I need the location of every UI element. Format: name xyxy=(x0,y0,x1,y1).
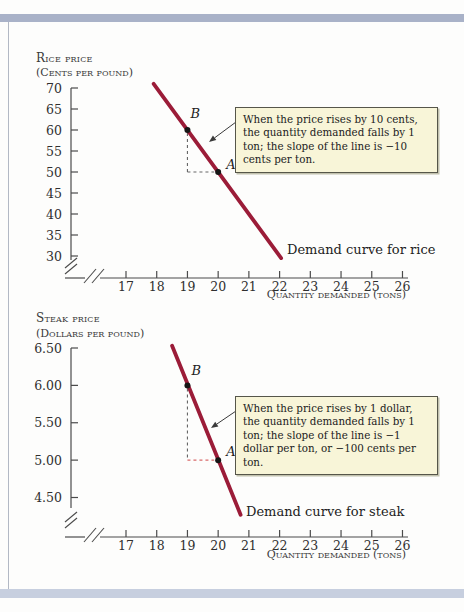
x-tick-label: 26 xyxy=(395,279,411,294)
y-tick-label: 70 xyxy=(46,81,62,96)
demand-curve xyxy=(172,346,241,515)
point-b-dot xyxy=(184,127,190,133)
point-b-label: B xyxy=(189,106,200,121)
charts-canvas: 70656055504540353017181920212223242526BA… xyxy=(0,0,464,612)
x-tick-label: 20 xyxy=(210,279,226,294)
x-tick-label: 19 xyxy=(179,279,195,294)
y-tick-label: 40 xyxy=(46,207,62,222)
y-axis-break xyxy=(65,264,77,274)
x-tick-label: 17 xyxy=(118,538,134,553)
y-tick-label: 5.00 xyxy=(34,453,62,468)
x-tick-label: 21 xyxy=(241,279,257,294)
x-tick-label: 25 xyxy=(364,538,380,553)
x-tick-label: 22 xyxy=(272,538,288,553)
annotation-arrow-line xyxy=(215,122,236,138)
y-tick-label: 45 xyxy=(46,186,62,201)
x-tick-label: 26 xyxy=(395,538,411,553)
y-axis-break xyxy=(65,512,77,522)
annotation-arrow-line xyxy=(217,411,236,424)
annotation-arrowhead xyxy=(211,422,218,428)
x-tick-label: 21 xyxy=(241,538,257,553)
y-tick-label: 6.00 xyxy=(34,378,62,393)
x-tick-label: 18 xyxy=(149,279,165,294)
y-tick-label: 5.50 xyxy=(34,415,62,430)
x-tick-label: 20 xyxy=(210,538,226,553)
annotation-arrowhead xyxy=(209,136,216,142)
point-a-label: A xyxy=(225,157,235,172)
x-tick-label: 24 xyxy=(333,279,349,294)
point-b-dot xyxy=(184,382,190,388)
x-tick-label: 24 xyxy=(333,538,349,553)
point-a-dot xyxy=(215,457,221,463)
y-tick-label: 4.50 xyxy=(34,490,62,505)
y-tick-label: 50 xyxy=(46,165,62,180)
x-tick-label: 19 xyxy=(179,538,195,553)
y-tick-label: 65 xyxy=(46,102,62,117)
y-tick-label: 6.50 xyxy=(34,341,62,356)
y-tick-label: 30 xyxy=(46,249,62,264)
x-tick-label: 23 xyxy=(302,538,318,553)
x-tick-label: 23 xyxy=(302,279,318,294)
point-b-label: B xyxy=(190,363,201,378)
y-tick-label: 60 xyxy=(46,123,62,138)
x-tick-label: 25 xyxy=(364,279,380,294)
point-a-label: A xyxy=(225,444,235,459)
y-tick-label: 35 xyxy=(46,228,62,243)
y-axis-break xyxy=(65,518,77,528)
y-tick-label: 55 xyxy=(46,144,62,159)
figure-panel: 70656055504540353017181920212223242526BA… xyxy=(0,0,464,612)
x-tick-label: 18 xyxy=(149,538,165,553)
x-tick-label: 22 xyxy=(272,279,288,294)
point-a-dot xyxy=(215,169,221,175)
x-tick-label: 17 xyxy=(118,279,134,294)
